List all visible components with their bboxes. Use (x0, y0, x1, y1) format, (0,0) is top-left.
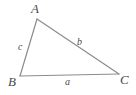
side-label-b: b (77, 37, 82, 47)
side-c-edge (20, 19, 37, 76)
side-label-a: a (65, 77, 70, 87)
vertex-label-c: C (120, 73, 129, 86)
vertex-label-a: A (31, 2, 39, 15)
triangle-diagram: A B C a b c (0, 0, 136, 95)
vertex-label-b: B (8, 75, 16, 88)
side-label-c: c (18, 42, 22, 52)
